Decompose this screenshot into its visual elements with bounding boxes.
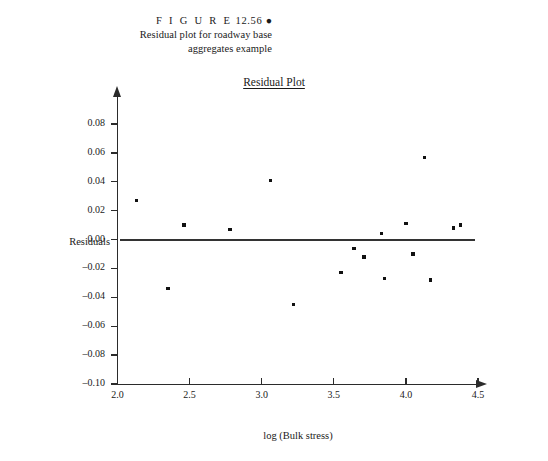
- data-point: [269, 179, 272, 182]
- y-axis-tick-label: –0.04: [45, 290, 105, 301]
- data-point: [228, 228, 231, 231]
- data-point: [135, 199, 138, 202]
- data-point: [166, 287, 169, 290]
- zero-reference-line: [120, 239, 475, 241]
- y-axis-tick-label: –0.06: [45, 319, 105, 330]
- y-axis-tick: [111, 123, 118, 124]
- y-axis-tick: [111, 354, 118, 355]
- x-axis-tick-label: 2.0: [96, 389, 140, 400]
- data-point: [352, 247, 355, 250]
- data-point: [459, 223, 462, 226]
- x-axis-tick: [477, 378, 478, 385]
- data-point: [452, 226, 455, 229]
- x-axis-tick-label: 3.5: [312, 389, 356, 400]
- y-axis-tick-label: 0.04: [45, 175, 105, 186]
- y-axis-tick: [111, 268, 118, 269]
- x-axis-tick-label: 3.0: [240, 389, 284, 400]
- x-axis-tick: [117, 378, 118, 385]
- data-point: [362, 255, 365, 258]
- y-axis-tick-label: –0.08: [45, 348, 105, 359]
- data-point: [292, 303, 295, 306]
- data-point: [423, 156, 426, 159]
- y-axis-tick-label: –0.10: [45, 377, 105, 388]
- x-axis-title: log (Bulk stress): [178, 430, 418, 441]
- x-axis-tick: [261, 378, 262, 385]
- data-point: [383, 277, 386, 280]
- y-axis-tick-label: –0.02: [45, 261, 105, 272]
- x-axis-tick: [333, 378, 334, 385]
- y-axis-tick-label: 0.02: [45, 204, 105, 215]
- x-axis-line: [117, 384, 478, 385]
- y-axis-tick-label: 0.08: [45, 117, 105, 128]
- y-axis-arrow-icon: [113, 86, 121, 97]
- x-axis-tick-label: 4.5: [456, 389, 500, 400]
- y-axis-tick: [111, 181, 118, 182]
- x-axis-tick-label: 2.5: [168, 389, 212, 400]
- scatter-plot: 0.080.060.040.020.00–0.02–0.04–0.06–0.08…: [0, 0, 548, 461]
- y-axis-tick: [111, 152, 118, 153]
- data-point: [339, 271, 342, 274]
- x-axis-tick-label: 4.0: [384, 389, 428, 400]
- data-point: [182, 223, 185, 226]
- data-point: [429, 278, 432, 281]
- y-axis-tick: [111, 297, 118, 298]
- data-point: [404, 222, 407, 225]
- y-axis-tick-label: 0.06: [45, 146, 105, 157]
- y-axis-tick: [111, 239, 118, 240]
- y-axis-tick: [111, 210, 118, 211]
- y-axis-tick: [111, 326, 118, 327]
- y-axis-title: Residuals: [6, 236, 110, 247]
- x-axis-tick: [405, 378, 406, 385]
- x-axis-tick: [189, 378, 190, 385]
- data-point: [380, 232, 383, 235]
- data-point: [411, 252, 414, 255]
